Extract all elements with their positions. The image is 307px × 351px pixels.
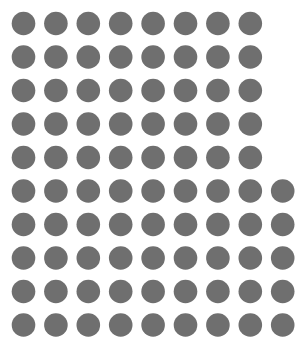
dot-r6-c5 xyxy=(141,179,165,203)
dots-group xyxy=(12,12,295,337)
dot-r6-c7 xyxy=(206,179,230,203)
dot-r7-c9 xyxy=(271,213,295,237)
dot-r10-c3 xyxy=(77,313,101,337)
dot-r2-c8 xyxy=(239,45,263,69)
dot-r2-c6 xyxy=(174,45,198,69)
dot-r5-c5 xyxy=(141,146,165,170)
dot-r6-c8 xyxy=(239,179,263,203)
dot-r5-c7 xyxy=(206,146,230,170)
dot-r2-c3 xyxy=(77,45,101,69)
dot-r7-c2 xyxy=(44,213,68,237)
dot-r7-c5 xyxy=(141,213,165,237)
dot-r9-c7 xyxy=(206,280,230,304)
dot-r4-c2 xyxy=(44,112,68,136)
dot-r9-c8 xyxy=(239,280,263,304)
dot-r10-c2 xyxy=(44,313,68,337)
dot-r10-c8 xyxy=(239,313,263,337)
dot-grid-chart xyxy=(0,0,307,351)
dot-r6-c1 xyxy=(12,179,36,203)
dot-r10-c6 xyxy=(174,313,198,337)
dot-r5-c1 xyxy=(12,146,36,170)
dot-r7-c6 xyxy=(174,213,198,237)
dot-r9-c3 xyxy=(77,280,101,304)
dot-r8-c9 xyxy=(271,246,295,270)
dot-r1-c3 xyxy=(77,12,101,36)
dot-r4-c8 xyxy=(239,112,263,136)
dot-r4-c7 xyxy=(206,112,230,136)
dot-r5-c3 xyxy=(77,146,101,170)
dot-r1-c8 xyxy=(239,12,263,36)
dot-r9-c4 xyxy=(109,280,133,304)
dot-r3-c5 xyxy=(141,79,165,103)
dot-r7-c8 xyxy=(239,213,263,237)
dot-r6-c9 xyxy=(271,179,295,203)
dot-r8-c4 xyxy=(109,246,133,270)
dot-r3-c2 xyxy=(44,79,68,103)
dot-r1-c6 xyxy=(174,12,198,36)
dot-r9-c2 xyxy=(44,280,68,304)
dot-r9-c5 xyxy=(141,280,165,304)
dot-r6-c4 xyxy=(109,179,133,203)
dot-r5-c4 xyxy=(109,146,133,170)
dot-r4-c1 xyxy=(12,112,36,136)
dot-r10-c5 xyxy=(141,313,165,337)
dot-r5-c8 xyxy=(239,146,263,170)
dot-r8-c3 xyxy=(77,246,101,270)
dot-r1-c1 xyxy=(12,12,36,36)
dot-r1-c2 xyxy=(44,12,68,36)
dot-r3-c7 xyxy=(206,79,230,103)
dot-r2-c4 xyxy=(109,45,133,69)
dot-r10-c9 xyxy=(271,313,295,337)
dot-r1-c4 xyxy=(109,12,133,36)
dot-r4-c5 xyxy=(141,112,165,136)
dot-r3-c3 xyxy=(77,79,101,103)
dot-r9-c9 xyxy=(271,280,295,304)
dot-r10-c4 xyxy=(109,313,133,337)
dot-r2-c1 xyxy=(12,45,36,69)
dot-r3-c1 xyxy=(12,79,36,103)
dot-r7-c1 xyxy=(12,213,36,237)
dot-r10-c1 xyxy=(12,313,36,337)
dot-r3-c8 xyxy=(239,79,263,103)
dot-r8-c2 xyxy=(44,246,68,270)
dot-r8-c8 xyxy=(239,246,263,270)
dot-r3-c4 xyxy=(109,79,133,103)
dot-r2-c2 xyxy=(44,45,68,69)
dot-r4-c4 xyxy=(109,112,133,136)
dot-r7-c3 xyxy=(77,213,101,237)
dot-r6-c3 xyxy=(77,179,101,203)
dot-r10-c7 xyxy=(206,313,230,337)
dot-r7-c7 xyxy=(206,213,230,237)
dot-r6-c2 xyxy=(44,179,68,203)
dot-r5-c6 xyxy=(174,146,198,170)
dot-r4-c3 xyxy=(77,112,101,136)
dot-r1-c5 xyxy=(141,12,165,36)
dot-r8-c6 xyxy=(174,246,198,270)
dot-r9-c6 xyxy=(174,280,198,304)
dot-r2-c5 xyxy=(141,45,165,69)
dot-r9-c1 xyxy=(12,280,36,304)
dot-r8-c5 xyxy=(141,246,165,270)
dot-r3-c6 xyxy=(174,79,198,103)
dot-r1-c7 xyxy=(206,12,230,36)
dot-r2-c7 xyxy=(206,45,230,69)
dot-r4-c6 xyxy=(174,112,198,136)
dot-r8-c1 xyxy=(12,246,36,270)
dot-r5-c2 xyxy=(44,146,68,170)
dot-r8-c7 xyxy=(206,246,230,270)
dot-r7-c4 xyxy=(109,213,133,237)
dot-r6-c6 xyxy=(174,179,198,203)
